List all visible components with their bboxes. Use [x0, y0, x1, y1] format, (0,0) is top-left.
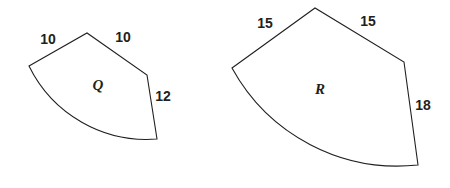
side-length-label-q-right: 10	[115, 29, 131, 45]
side-length-label-q-far-right: 12	[155, 88, 171, 104]
side-length-label-r-right: 15	[360, 13, 376, 29]
shape-label-q: Q	[93, 77, 104, 93]
shape-group-r: R 15 15 18	[232, 8, 431, 166]
shape-label-r: R	[314, 81, 325, 97]
side-length-label-r-left: 15	[257, 15, 273, 31]
shape-group-q: Q 10 10 12	[29, 29, 171, 140]
side-length-label-q-left: 10	[40, 31, 56, 47]
geometry-figure-canvas: Q 10 10 12 R 15 15 18	[0, 0, 450, 188]
side-length-label-r-far-right: 18	[415, 97, 431, 113]
